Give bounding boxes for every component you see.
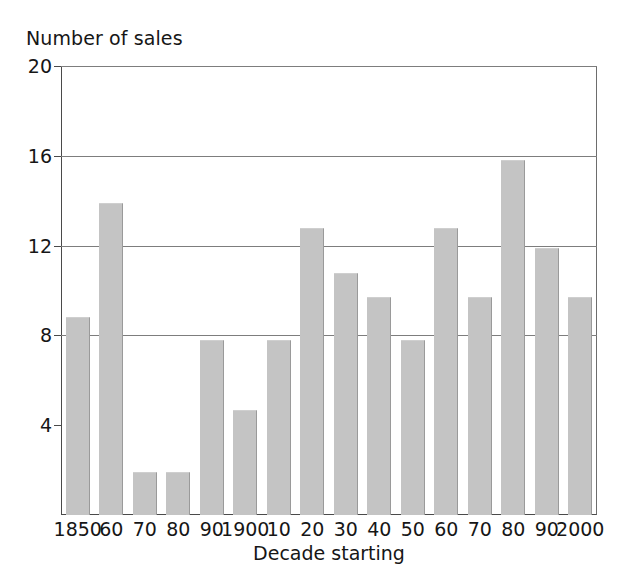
x-tick-label-30: 30 <box>334 518 358 540</box>
x-tick-label-60: 60 <box>434 518 458 540</box>
bar-20 <box>300 228 324 515</box>
bar-1850 <box>66 317 90 515</box>
x-tick-label-70: 70 <box>133 518 157 540</box>
bar-chart: Number of sales 48121620 185060708090190… <box>0 0 635 587</box>
bar-90 <box>200 340 224 515</box>
x-tick-label-50: 50 <box>401 518 425 540</box>
x-tick-label-80: 80 <box>166 518 190 540</box>
bar-60 <box>99 203 123 515</box>
bar-50 <box>401 340 425 515</box>
bar-60 <box>434 228 458 515</box>
y-tick-label-4: 4 <box>4 414 52 436</box>
bar-2000 <box>568 297 592 515</box>
bar-30 <box>334 273 358 515</box>
chart-title: Number of sales <box>26 27 183 49</box>
bar-70 <box>133 472 157 515</box>
y-tick-label-8: 8 <box>4 324 52 346</box>
bar-40 <box>367 297 391 515</box>
x-tick-label-2000: 2000 <box>556 518 604 540</box>
y-tick-label-12: 12 <box>4 235 52 257</box>
bar-80 <box>501 160 525 515</box>
x-tick-label-40: 40 <box>367 518 391 540</box>
x-tick-label-10: 10 <box>267 518 291 540</box>
y-tick-16 <box>54 156 61 157</box>
x-tick-label-1900: 1900 <box>221 518 269 540</box>
x-tick-label-70: 70 <box>468 518 492 540</box>
x-tick-label-1850: 1850 <box>54 518 102 540</box>
y-tick-20 <box>54 66 61 67</box>
bar-1900 <box>233 410 257 516</box>
y-tick-label-16: 16 <box>4 145 52 167</box>
bar-90 <box>535 248 559 515</box>
x-tick-label-80: 80 <box>501 518 525 540</box>
y-tick-12 <box>54 246 61 247</box>
x-tick-label-20: 20 <box>300 518 324 540</box>
y-tick-4 <box>54 425 61 426</box>
bar-10 <box>267 340 291 515</box>
y-tick-label-20: 20 <box>4 55 52 77</box>
y-tick-8 <box>54 335 61 336</box>
x-axis-title: Decade starting <box>61 542 597 564</box>
bar-70 <box>468 297 492 515</box>
bar-80 <box>166 472 190 515</box>
x-tick-label-60: 60 <box>99 518 123 540</box>
bars-group <box>61 66 597 515</box>
